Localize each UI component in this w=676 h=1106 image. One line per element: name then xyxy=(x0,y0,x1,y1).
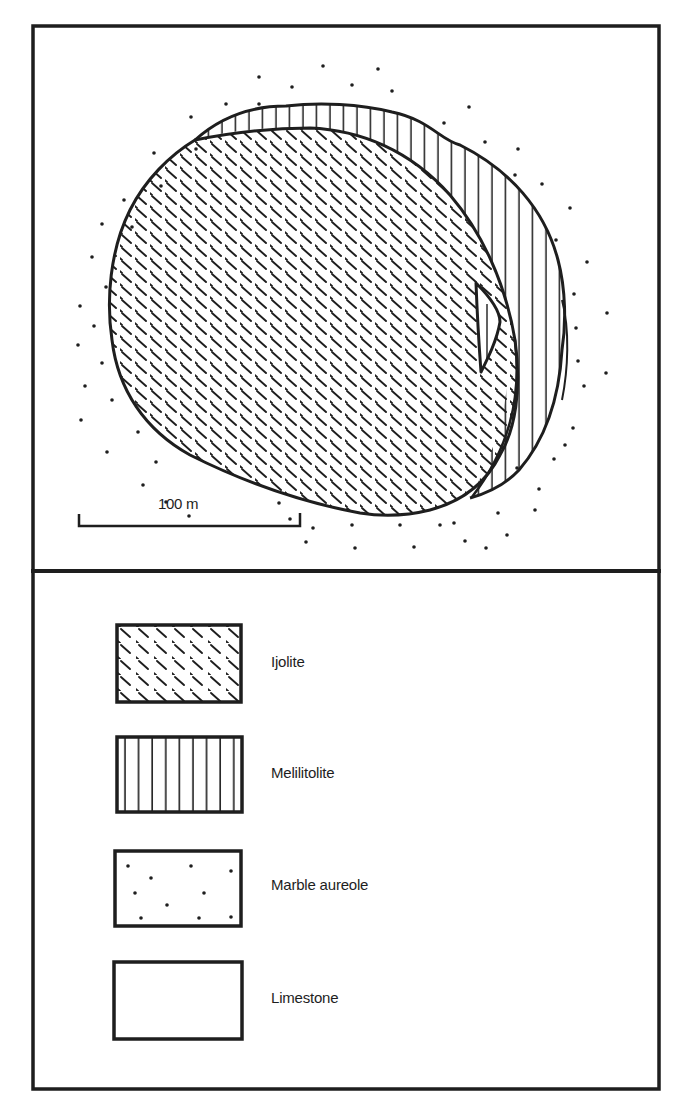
legend-swatch-marble-aureole xyxy=(115,851,241,926)
geological-map-figure: 100 m Ijolite Melilitolite Marble aureol… xyxy=(0,0,676,1106)
legend-label-melilitolite: Melilitolite xyxy=(271,764,334,781)
legend-swatch-ijolite xyxy=(117,625,241,702)
legend-label-marble-aureole: Marble aureole xyxy=(271,876,368,893)
legend-label-limestone: Limestone xyxy=(271,989,338,1006)
legend-label-ijolite: Ijolite xyxy=(271,653,305,670)
map-canvas xyxy=(0,0,676,1106)
scale-bar-label: 100 m xyxy=(158,495,198,512)
legend-swatch-melilitolite xyxy=(117,737,242,812)
legend-swatch-limestone xyxy=(114,962,242,1039)
